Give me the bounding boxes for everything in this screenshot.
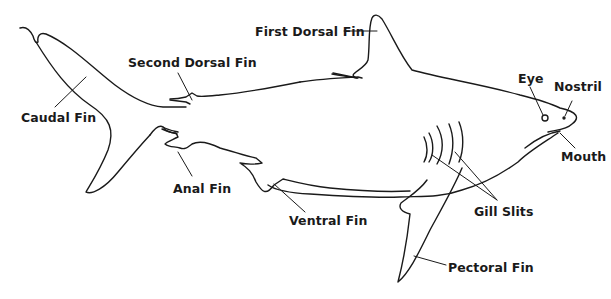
label-mouth: Mouth: [561, 149, 606, 164]
leader-ventral: [274, 184, 305, 212]
leader-anal: [178, 152, 192, 176]
leader-mouth: [560, 133, 575, 148]
leader-second-dorsal: [178, 73, 192, 100]
eye-marker: [542, 115, 548, 121]
mouth-outline: [268, 131, 560, 197]
gill-slit-3: [437, 126, 442, 164]
label-eye: Eye: [518, 71, 543, 86]
shark-anatomy-diagram: First Dorsal Fin Second Dorsal Fin Cauda…: [0, 0, 611, 299]
label-ventral-fin: Ventral Fin: [289, 213, 367, 228]
gill-slit-1: [424, 137, 427, 162]
label-gill-slits: Gill Slits: [474, 204, 533, 219]
nostril-marker: [563, 117, 565, 119]
label-anal-fin: Anal Fin: [173, 181, 231, 196]
label-pectoral-fin: Pectoral Fin: [448, 260, 534, 275]
shark-outline-drawing: [0, 0, 611, 299]
label-caudal-fin: Caudal Fin: [21, 110, 96, 125]
leader-nostril: [565, 101, 572, 116]
gill-slit-2: [429, 133, 433, 162]
label-first-dorsal-fin: First Dorsal Fin: [255, 24, 365, 39]
gill-slit-4: [449, 124, 453, 164]
leader-gill-1: [432, 155, 497, 200]
label-nostril: Nostril: [554, 79, 602, 94]
second-dorsal-fin-flap: [170, 100, 190, 104]
leader-gill-2: [455, 152, 497, 200]
label-second-dorsal-fin: Second Dorsal Fin: [128, 55, 257, 70]
gill-slit-5: [459, 122, 463, 162]
leader-caudal: [55, 77, 86, 107]
second-dorsal-fin-outline: [170, 82, 300, 99]
leader-pectoral: [414, 256, 446, 265]
